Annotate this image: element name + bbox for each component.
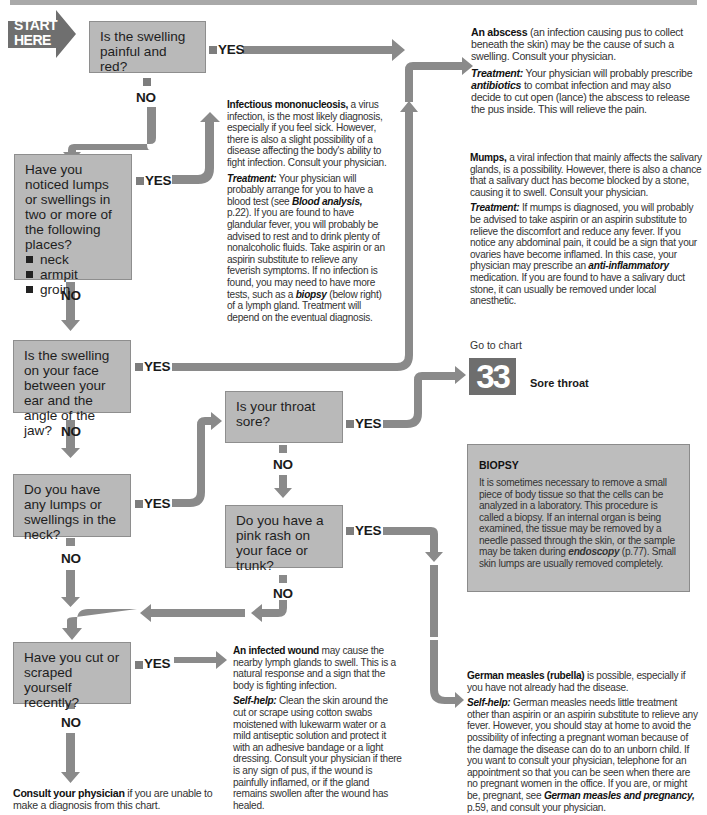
crossref-anti-inflammatory[interactable]: anti-inflammatory — [588, 260, 668, 271]
question-text: Is the swelling painful and red? — [100, 29, 185, 74]
arrow-q5-no-stem — [66, 538, 75, 546]
crossref-endoscopy[interactable]: endoscopy — [568, 546, 619, 557]
yes-marker — [135, 661, 143, 669]
arrow-q6-yes-down — [430, 565, 438, 637]
arrow-q4-yes — [383, 366, 466, 428]
arrow-q1-yes — [243, 39, 405, 61]
yes-marker — [346, 420, 354, 428]
start-here-label: START HERE — [14, 18, 57, 48]
biopsy-text: It is sometimes necessary to remove a sm… — [479, 477, 678, 569]
outcome-title: Mumps, — [470, 152, 507, 163]
outcome-abscess: An abscess (an infection causing pus to … — [471, 26, 703, 119]
no-label: NO — [61, 551, 81, 566]
yes-marker — [346, 527, 354, 535]
selfhelp-label: Self-help: — [467, 697, 510, 708]
question-text: Have you cut or scraped yourself recentl… — [24, 650, 119, 710]
arrow-q3-yes-out — [405, 57, 473, 75]
arrow-q1-no-stem — [147, 107, 156, 124]
crossref-biopsy[interactable]: biopsy — [296, 289, 327, 300]
question-q7[interactable]: Have you cut or scraped yourself recentl… — [13, 642, 131, 704]
question-text: Do you have any lumps or swellings in th… — [24, 482, 116, 542]
arrow-q6-yes — [383, 527, 443, 562]
yes-label: YES — [145, 173, 171, 188]
question-q1[interactable]: Is the swelling painful and red? — [89, 21, 206, 73]
yes-label: YES — [144, 496, 170, 511]
treatment-label: Treatment: — [471, 67, 523, 79]
outcome-mumps: Mumps, a viral infection that mainly aff… — [470, 152, 702, 311]
outcome-infected-wound: An infected wound may cause the nearby l… — [233, 645, 403, 815]
arrow-q2-yes — [172, 112, 220, 184]
selfhelp-text: Clean the skin around the cut or scrape … — [233, 695, 402, 810]
question-text: Do you have a pink rash on your face or … — [236, 513, 324, 573]
no-label: NO — [61, 715, 81, 730]
outcome-consult: Consult your physician if you are unable… — [13, 787, 233, 811]
no-label: NO — [136, 90, 156, 105]
treatment-text: Your physician will probably prescribe — [523, 67, 692, 79]
outcome-title: An infected wound — [233, 645, 319, 656]
arrow-q7-no-head — [61, 733, 80, 783]
question-q5[interactable]: Do you have any lumps or swellings in th… — [13, 474, 131, 537]
arrow-q5-no-head — [61, 570, 80, 607]
arrow-q5-yes — [172, 412, 222, 507]
start-label-line1: START — [14, 18, 57, 33]
place-item: neck — [25, 252, 121, 267]
selfhelp-text: German measles needs little treatment ot… — [467, 697, 698, 801]
selfhelp-label: Self-help: — [233, 695, 276, 706]
yes-label: YES — [144, 656, 170, 671]
yes-marker — [136, 177, 144, 185]
treatment-label: Treatment: — [227, 173, 276, 184]
yes-label: YES — [355, 416, 381, 431]
no-label: NO — [61, 424, 81, 439]
treatment-text: p.22). If you are found to have glandula… — [227, 207, 385, 299]
question-text: Is your throat sore? — [236, 399, 315, 429]
outcome-title: Consult your physician — [13, 787, 125, 799]
treatment-label: Treatment: — [470, 202, 519, 213]
chart-33-badge[interactable]: 33 — [469, 358, 516, 395]
crossref-blood-analysis[interactable]: Blood analysis, — [292, 196, 362, 207]
arrow-q6-no-stem — [279, 575, 287, 583]
outcome-title: Infectious mononucleosis, — [227, 99, 348, 110]
question-q2[interactable]: Have you noticed lumps or swellings in t… — [14, 154, 132, 280]
arrow-q3-yes-riser — [405, 70, 413, 102]
arrow-q2-no-head — [61, 304, 80, 331]
treatment-text: medication. If you are found to have a s… — [470, 272, 685, 306]
place-item: armpit — [25, 267, 121, 282]
goto-chart-label: Go to chart — [470, 339, 522, 351]
outcome-title: German measles (rubella) — [467, 670, 584, 681]
start-label-line2: HERE — [14, 33, 57, 48]
yes-label: YES — [218, 42, 244, 57]
arrow-q7-yes — [174, 651, 227, 669]
yes-label: YES — [355, 523, 381, 538]
yes-label: YES — [144, 359, 170, 374]
arrow-merge-elbow — [62, 609, 137, 640]
outcome-mononucleosis: Infectious mononucleosis, a virus infect… — [227, 99, 387, 327]
yes-marker — [209, 46, 217, 54]
crossref-antibiotics[interactable]: antibiotics — [471, 79, 521, 91]
selfhelp-text: p.59, and consult your physician. — [467, 802, 606, 813]
question-q6[interactable]: Do you have a pink rash on your face or … — [225, 505, 343, 568]
arrow-merge-left — [140, 604, 245, 622]
arrow-q6-yes-elbow — [430, 640, 464, 708]
no-label: NO — [61, 288, 81, 303]
biopsy-text-part: It is sometimes necessary to remove a sm… — [479, 477, 675, 557]
outcome-title: An abscess — [471, 26, 527, 38]
outcome-german-measles: German measles (rubella) is possible, es… — [467, 670, 699, 815]
arrow-q4-no-head — [274, 475, 292, 498]
no-label: NO — [273, 457, 293, 472]
arrow-q4-no-stem — [279, 445, 287, 453]
question-text: Have you noticed lumps or swellings in t… — [25, 162, 112, 252]
no-label: NO — [273, 586, 293, 601]
arrow-q6-no — [251, 600, 287, 622]
biopsy-heading: BIOPSY — [479, 459, 678, 471]
question-q3[interactable]: Is the swelling on your face between you… — [13, 340, 131, 413]
chart-33-title[interactable]: Sore throat — [530, 377, 589, 389]
yes-marker — [135, 363, 143, 371]
no-marker — [143, 78, 151, 86]
yes-marker — [135, 500, 143, 508]
crossref-german-measles-pregnancy[interactable]: German measles and pregnancy, — [544, 790, 695, 801]
biopsy-info-box: BIOPSY It is sometimes necessary to remo… — [467, 444, 690, 592]
question-q4[interactable]: Is your throat sore? — [225, 391, 343, 443]
